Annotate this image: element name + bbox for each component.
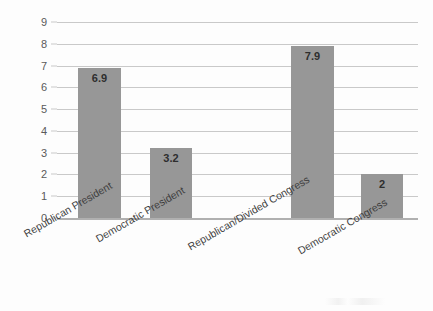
y-tick-label-1: 1 bbox=[41, 191, 47, 202]
y-tick-label-3: 3 bbox=[41, 147, 47, 158]
bar-value-label-4: 2 bbox=[361, 179, 403, 190]
y-tick-label-5: 5 bbox=[41, 104, 47, 115]
bar-value-label-2: 3.2 bbox=[150, 153, 192, 164]
bar-value-label-3: 7.9 bbox=[291, 51, 334, 62]
y-axis: 0123456789 bbox=[0, 0, 57, 311]
gridline-9 bbox=[57, 22, 418, 23]
y-tick-label-8: 8 bbox=[41, 38, 47, 49]
scan-artifact bbox=[325, 298, 385, 305]
gridline-7 bbox=[57, 66, 418, 67]
bar-chart: 0123456789 6.93.27.92 Republican Preside… bbox=[0, 0, 433, 311]
y-tick-label-2: 2 bbox=[41, 169, 47, 180]
y-tick-label-6: 6 bbox=[41, 82, 47, 93]
y-tick-label-9: 9 bbox=[41, 17, 47, 28]
gridline-8 bbox=[57, 44, 418, 45]
y-tick-label-7: 7 bbox=[41, 60, 47, 71]
bar-value-label-1: 6.9 bbox=[78, 73, 121, 84]
y-tick-label-4: 4 bbox=[41, 125, 47, 136]
bar-3[interactable]: 7.9 bbox=[291, 46, 334, 218]
